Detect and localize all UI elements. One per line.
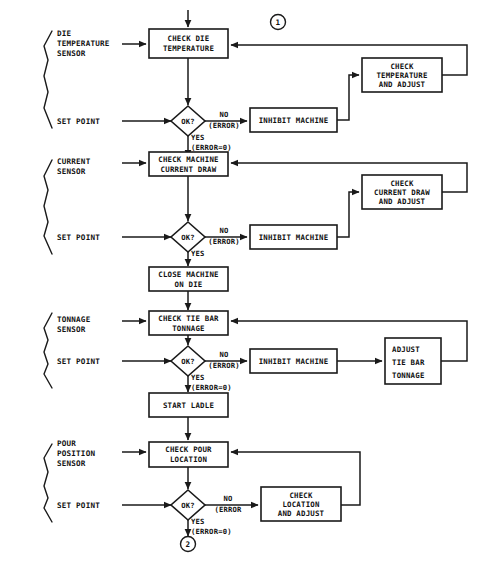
edge-label-no-sub: (ERROR) [208, 121, 240, 130]
box-adjust-line-1: TEMPERATURE [376, 71, 427, 80]
box-adjust-line-0: CHECK [289, 491, 313, 500]
label-sensor-line-0: DIE [57, 29, 72, 38]
box-inhibit-machine-label: INHIBIT MACHINE [259, 116, 329, 125]
edge-label-yes: YES [191, 373, 205, 382]
label-sensor-line-1: TEMPERATURE [57, 39, 110, 48]
brace-tie-bar-tonnage [44, 313, 52, 388]
label-sensor-line-0: TONNAGE [57, 315, 91, 324]
line-inhibit-to-adjust [337, 75, 359, 120]
edge-label-yes: YES [191, 517, 205, 526]
box-adjust-line-0: CHECK [390, 179, 414, 188]
section-tie-bar-tonnage: TONNAGE SENSOR SET POINT CHECK TIE BAR T… [44, 311, 467, 440]
flowchart-canvas: 1 DIE TEMPERATURE SENSOR SET POINT CHECK… [0, 0, 481, 567]
connector-top: 1 [271, 15, 286, 30]
box-adjust-line-2: AND ADJUST [379, 197, 426, 206]
box-adjust-line-1: LOCATION [282, 500, 320, 509]
box-check-line-0: CHECK POUR [165, 445, 212, 454]
box-check-die-temperature-line-1: TEMPERATURE [163, 44, 214, 53]
box-adjust-line-2: TONNAGE [392, 371, 425, 380]
connector-label-1: 1 [276, 18, 281, 27]
box-start-ladle-label: START LADLE [163, 401, 214, 410]
box-adjust-line-0: CHECK [390, 62, 414, 71]
section-current-draw: CURRENT SENSOR SET POINT CHECK MACHINE C… [44, 152, 467, 310]
box-adjust-line-0: ADJUST [392, 345, 420, 354]
label-sensor-line-0: CURRENT [57, 157, 91, 166]
label-setpoint: SET POINT [57, 501, 100, 510]
label-sensor-line-1: POSITION [57, 449, 95, 458]
edge-label-yes-sub: (ERROR=0) [191, 527, 232, 536]
box-check-line-1: LOCATION [170, 455, 208, 464]
box-check-line-0: CHECK MACHINE [158, 155, 218, 164]
box-inhibit-machine-label: INHIBIT MACHINE [259, 233, 329, 242]
edge-label-yes: YES [191, 249, 205, 258]
brace-die-temperature [44, 31, 52, 128]
label-sensor-line-1: SENSOR [57, 167, 86, 176]
box-adjust-line-2: AND ADJUST [278, 509, 325, 518]
edge-label-no: NO [219, 110, 228, 119]
edge-label-no-sub: (ERROR) [208, 237, 240, 246]
box-adjust-line-1: TIE BAR [392, 358, 425, 367]
label-sensor-line-2: SENSOR [57, 459, 86, 468]
edge-label-no: NO [219, 226, 228, 235]
label-sensor-line-1: SENSOR [57, 325, 86, 334]
box-check-line-1: CURRENT DRAW [161, 165, 217, 174]
edge-label-yes-sub: (ERROR=0) [191, 143, 232, 152]
line-inhibit-to-adjust [337, 192, 359, 237]
box-check-line-0: CHECK TIE BAR [158, 314, 219, 323]
edge-label-no-sub: (ERROR [214, 505, 242, 514]
connector-label-2: 2 [186, 540, 191, 549]
label-setpoint: SET POINT [57, 117, 100, 126]
brace-current-draw [44, 160, 52, 254]
edge-label-no: NO [219, 350, 228, 359]
box-check-die-temperature-line-0: CHECK DIE [168, 34, 210, 43]
decision-label: OK? [181, 501, 195, 510]
box-inhibit-machine-label: INHIBIT MACHINE [259, 357, 329, 366]
edge-label-no: NO [223, 494, 232, 503]
box-adjust-line-1: CURRENT DRAW [374, 188, 430, 197]
edge-label-no-sub: (ERROR) [208, 361, 240, 370]
decision-label: OK? [181, 357, 195, 366]
label-sensor-line-2: SENSOR [57, 49, 86, 58]
box-adjust-line-2: AND ADJUST [379, 80, 426, 89]
section-die-temperature: DIE TEMPERATURE SENSOR SET POINT CHECK D… [44, 10, 467, 157]
flowchart-svg: 1 DIE TEMPERATURE SENSOR SET POINT CHECK… [0, 0, 481, 567]
decision-label: OK? [181, 233, 195, 242]
label-sensor-line-0: POUR [57, 439, 76, 448]
edge-label-yes: YES [191, 133, 205, 142]
box-close-machine-line-0: CLOSE MACHINE [158, 270, 218, 279]
section-pour-location: POUR POSITION SENSOR SET POINT CHECK POU… [44, 439, 360, 552]
brace-pour-location [44, 444, 52, 522]
label-setpoint: SET POINT [57, 357, 100, 366]
box-check-line-1: TONNAGE [172, 324, 205, 333]
edge-label-yes-sub: (ERROR=0) [191, 383, 232, 392]
box-close-machine-line-1: ON DIE [175, 280, 203, 289]
label-setpoint: SET POINT [57, 233, 100, 242]
decision-label: OK? [181, 117, 195, 126]
